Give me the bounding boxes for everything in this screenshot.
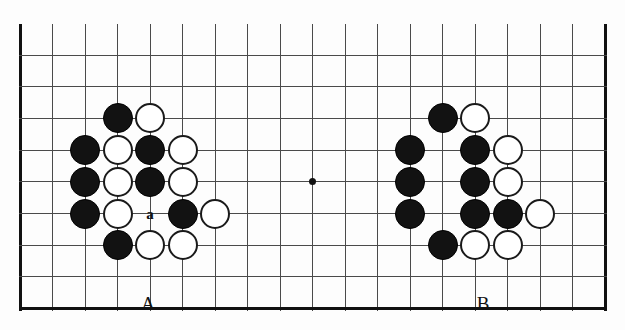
- black-stone[interactable]: [395, 167, 425, 197]
- white-stone[interactable]: [135, 230, 165, 260]
- black-stone[interactable]: [460, 199, 490, 229]
- white-stone[interactable]: [168, 167, 198, 197]
- black-stone[interactable]: [493, 199, 523, 229]
- white-stone[interactable]: [103, 135, 133, 165]
- board-edge-line-vertical: [19, 24, 22, 311]
- board-grid-line-vertical: [442, 24, 443, 311]
- white-stone[interactable]: [493, 230, 523, 260]
- black-stone[interactable]: [168, 199, 198, 229]
- board-edge-line-vertical: [604, 24, 607, 311]
- board-grid-line-vertical: [52, 24, 53, 311]
- white-stone[interactable]: [525, 199, 555, 229]
- black-stone[interactable]: [135, 135, 165, 165]
- white-stone[interactable]: [493, 135, 523, 165]
- board-grid-line-vertical: [345, 24, 346, 311]
- board-grid-line-vertical: [215, 24, 216, 311]
- white-stone[interactable]: [103, 199, 133, 229]
- board-grid-line-vertical: [377, 24, 378, 311]
- diagram-caption-b: B: [477, 293, 490, 315]
- white-stone[interactable]: [103, 167, 133, 197]
- go-board-grid: [0, 0, 625, 330]
- white-stone[interactable]: [493, 167, 523, 197]
- black-stone[interactable]: [135, 167, 165, 197]
- white-stone[interactable]: [168, 135, 198, 165]
- go-diagram-figure: a AB: [0, 0, 625, 330]
- board-grid-line-vertical: [280, 24, 281, 311]
- white-stone[interactable]: [200, 199, 230, 229]
- board-point-label: a: [146, 206, 154, 221]
- black-stone[interactable]: [395, 199, 425, 229]
- black-stone[interactable]: [428, 230, 458, 260]
- black-stone[interactable]: [70, 199, 100, 229]
- board-grid-line-horizontal: [19, 55, 607, 56]
- diagram-caption-a: A: [141, 293, 155, 315]
- board-grid-line-vertical: [247, 24, 248, 311]
- black-stone[interactable]: [428, 103, 458, 133]
- white-stone[interactable]: [168, 230, 198, 260]
- white-stone[interactable]: [460, 230, 490, 260]
- black-stone[interactable]: [103, 103, 133, 133]
- black-stone[interactable]: [395, 135, 425, 165]
- black-stone[interactable]: [460, 167, 490, 197]
- black-stone[interactable]: [460, 135, 490, 165]
- board-grid-line-vertical: [572, 24, 573, 311]
- board-grid-line-vertical: [312, 24, 313, 311]
- board-edge-line-horizontal: [19, 307, 607, 310]
- board-grid-line-horizontal: [19, 276, 607, 277]
- black-stone[interactable]: [103, 230, 133, 260]
- board-grid-line-vertical: [540, 24, 541, 311]
- black-stone[interactable]: [70, 135, 100, 165]
- board-grid-line-horizontal: [19, 86, 607, 87]
- black-stone[interactable]: [70, 167, 100, 197]
